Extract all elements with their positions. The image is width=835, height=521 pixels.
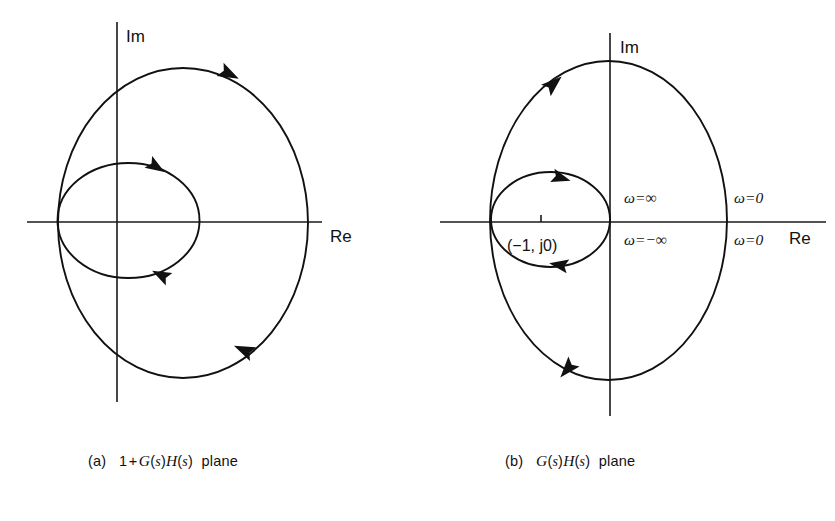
panel-a-outer-arrow-top <box>217 63 243 86</box>
nyquist-figure: Im Re Im Re (−1, j0) ω=∞ ω=−∞ <box>0 0 835 521</box>
panel-a-caption-label: (a) <box>88 453 106 469</box>
panel-b: Im Re (−1, j0) ω=∞ ω=−∞ ω=0 ω=0 <box>440 33 826 416</box>
panel-b-caption: (b) G(s)H(s) plane <box>505 452 635 470</box>
panel-a-re-label: Re <box>330 227 352 246</box>
panel-b-outer-arrow-bottom <box>554 356 579 382</box>
panel-a-caption: (a) 1 + G(s)H(s) plane <box>88 452 238 470</box>
panel-a-outer-contour <box>58 68 308 378</box>
panel-b-critical-point-label: (−1, j0) <box>507 237 557 254</box>
panel-b-im-label: Im <box>620 38 639 57</box>
panel-b-re-label: Re <box>789 229 811 248</box>
panel-b-omega-infinity-label: ω=∞ <box>624 189 656 206</box>
panel-a-inner-arrow-top <box>145 156 169 178</box>
panel-b-caption-label: (b) <box>505 453 523 469</box>
panel-b-omega-zero-lower-label: ω=0 <box>734 231 763 248</box>
panel-a: Im Re <box>27 22 352 402</box>
panel-a-im-label: Im <box>126 27 145 46</box>
panel-a-inner-contour <box>58 163 200 278</box>
panel-b-omega-zero-upper-label: ω=0 <box>734 189 763 206</box>
panel-b-omega-negative-infinity-label: ω=−∞ <box>624 231 667 248</box>
panel-b-outer-arrow-top <box>541 71 567 96</box>
panel-b-outer-contour <box>490 61 727 380</box>
